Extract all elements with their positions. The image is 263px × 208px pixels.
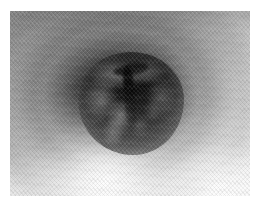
endoscopic-lumen-image: [10, 11, 250, 196]
image-canvas: [0, 0, 263, 208]
film-grain-texture: [10, 11, 250, 196]
